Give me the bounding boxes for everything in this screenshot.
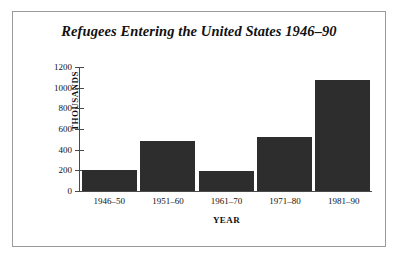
- x-axis-title: YEAR: [80, 215, 373, 225]
- x-axis-tick-label: 1951–60: [139, 196, 198, 206]
- y-axis-tick-label: 800: [59, 103, 73, 113]
- bar-slot: [314, 67, 372, 191]
- bar-slot: [138, 67, 196, 191]
- bar: [257, 137, 312, 191]
- chart-figure: Refugees Entering the United States 1946…: [12, 11, 386, 247]
- bar: [315, 80, 370, 191]
- y-axis-tick-label: 600: [59, 124, 73, 134]
- y-axis-tick-mark: [75, 191, 84, 192]
- y-axis-tick-label: 1200: [54, 62, 72, 72]
- x-axis-tick-label: 1981–90: [314, 196, 373, 206]
- bar: [82, 170, 137, 191]
- y-axis-tick-label: 0: [68, 186, 73, 196]
- plot-area: 020040060080010001200: [79, 67, 372, 191]
- x-axis-tick-label: 1946–50: [80, 196, 139, 206]
- bar-slot: [255, 67, 313, 191]
- x-axis-line: [79, 191, 372, 192]
- x-axis-tick-labels: 1946–501951–601961–701971–801981–90: [80, 196, 373, 206]
- y-axis-tick-label: 400: [59, 145, 73, 155]
- y-axis-tick-label: 200: [59, 165, 73, 175]
- bar: [199, 171, 254, 191]
- bar: [140, 141, 195, 191]
- bar-slot: [197, 67, 255, 191]
- x-axis-tick-label: 1961–70: [197, 196, 256, 206]
- bar-series: [80, 67, 372, 191]
- chart-title: Refugees Entering the United States 1946…: [13, 23, 385, 40]
- x-axis-tick-label: 1971–80: [256, 196, 315, 206]
- bar-slot: [80, 67, 138, 191]
- y-axis-tick-label: 1000: [54, 83, 72, 93]
